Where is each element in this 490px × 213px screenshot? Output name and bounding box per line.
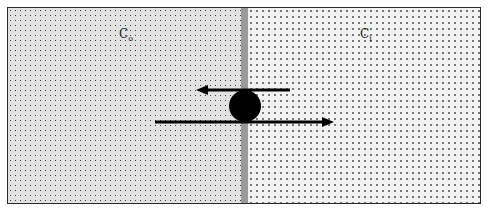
particle-circle	[229, 90, 261, 122]
flux-overlay	[0, 0, 490, 213]
